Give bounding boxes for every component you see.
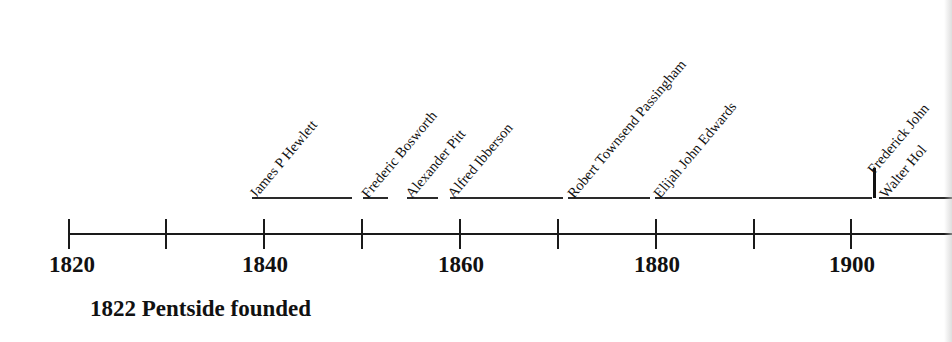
axis-tick bbox=[263, 219, 265, 249]
axis-tick bbox=[753, 219, 755, 249]
axis-tick bbox=[459, 219, 461, 249]
person-name-label: Elijah John Edwards bbox=[651, 99, 739, 200]
year-label: 1820 bbox=[49, 252, 95, 278]
axis-tick bbox=[361, 219, 363, 249]
tenure-segment bbox=[450, 197, 563, 199]
axis-tick bbox=[850, 219, 852, 249]
year-label: 1900 bbox=[829, 252, 875, 278]
axis-tick bbox=[557, 219, 559, 249]
axis-tick bbox=[655, 219, 657, 249]
year-label: 1880 bbox=[634, 252, 680, 278]
year-label: 1860 bbox=[438, 252, 484, 278]
axis-tick bbox=[165, 219, 167, 249]
axis-tick bbox=[68, 219, 70, 249]
founding-caption: 1822 Pentside founded bbox=[90, 296, 311, 322]
tenure-segment bbox=[252, 197, 352, 199]
tenure-segment bbox=[655, 197, 872, 199]
person-name-label: Frederic Bosworth bbox=[359, 108, 440, 200]
person-name-label: James P Hewlett bbox=[247, 118, 320, 201]
year-label: 1840 bbox=[242, 252, 288, 278]
tenure-segment bbox=[568, 197, 650, 199]
timeline-axis bbox=[69, 233, 952, 235]
page-edge-shadow bbox=[944, 0, 952, 342]
